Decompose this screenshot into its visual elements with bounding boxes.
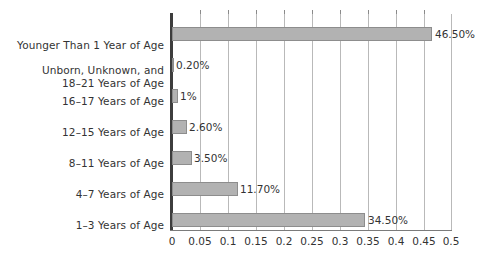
gridline-0.4 <box>396 14 397 231</box>
bar-younger-than-1-year-of-age <box>172 27 432 41</box>
tick-top-0.2 <box>284 10 285 14</box>
bar-8-11-years-of-age <box>172 151 192 165</box>
category-label-16-17-years-of-age: 16–17 Years of Age <box>62 95 164 108</box>
category-label-4-7-years-of-age: 4–7 Years of Age <box>76 188 164 201</box>
gridline-0.2 <box>284 14 285 231</box>
gridline-0.5 <box>451 14 452 231</box>
plot-area: 46.50% 0.20% 1% 2.60% 3.50% 11.70% 34.50… <box>172 14 452 231</box>
xtick-label-0.15: 0.15 <box>244 235 267 248</box>
bar-label-1-3-years-of-age: 34.50% <box>368 214 408 226</box>
gridline-0.35 <box>368 14 369 231</box>
tick-top-0.45 <box>424 10 425 14</box>
bar-4-7-years-of-age <box>172 182 238 196</box>
bar-12-15-years-of-age <box>172 120 187 134</box>
category-label-8-11-years-of-age: 8–11 Years of Age <box>69 157 164 170</box>
x-axis-tick-labels: 0 0.05 0.1 0.15 0.2 0.25 0.3 0.35 0.4 0.… <box>172 235 452 255</box>
bar-16-17-years-of-age <box>172 89 178 103</box>
bar-label-4-7-years-of-age: 11.70% <box>240 183 280 195</box>
tick-top-0.35 <box>368 10 369 14</box>
bar-label-12-15-years-of-age: 2.60% <box>189 121 222 133</box>
gridline-0.25 <box>312 14 313 231</box>
tick-top-0.05 <box>200 10 201 14</box>
x-axis-line <box>170 230 452 231</box>
xtick-label-0.4: 0.4 <box>388 235 405 248</box>
gridline-0.15 <box>256 14 257 231</box>
tick-top-0.1 <box>228 10 229 14</box>
bar-label-unborn-unknown-and-18-21-years-of-age: 0.20% <box>176 59 209 71</box>
xtick-label-0: 0 <box>169 235 176 248</box>
tick-top-0.4 <box>396 10 397 14</box>
xtick-label-0.35: 0.35 <box>356 235 379 248</box>
bar-unborn-unknown-and-18-21-years-of-age <box>172 58 174 72</box>
category-axis-labels: Younger Than 1 Year of Age Unborn, Unkno… <box>0 14 168 231</box>
xtick-label-0.2: 0.2 <box>276 235 293 248</box>
xtick-label-0.05: 0.05 <box>188 235 211 248</box>
category-label-12-15-years-of-age: 12–15 Years of Age <box>62 126 164 139</box>
xtick-label-0.25: 0.25 <box>300 235 323 248</box>
bar-1-3-years-of-age <box>172 213 365 227</box>
bar-chart: Younger Than 1 Year of Age Unborn, Unkno… <box>0 0 495 259</box>
bar-label-16-17-years-of-age: 1% <box>180 90 197 102</box>
bar-label-younger-than-1-year-of-age: 46.50% <box>435 28 475 40</box>
xtick-label-0.45: 0.45 <box>412 235 435 248</box>
category-label-1-3-years-of-age: 1–3 Years of Age <box>76 219 164 232</box>
gridline-0.45 <box>424 14 425 231</box>
gridline-0.3 <box>340 14 341 231</box>
category-label-younger-than-1-year-of-age: Younger Than 1 Year of Age <box>17 39 164 52</box>
tick-top-0.25 <box>312 10 313 14</box>
tick-top-0.3 <box>340 10 341 14</box>
xtick-label-0.3: 0.3 <box>332 235 349 248</box>
xtick-label-0.5: 0.5 <box>443 235 460 248</box>
category-label-unborn-unknown-and-18-21-years-of-age: Unborn, Unknown, and 18–21 Years of Age <box>42 64 164 89</box>
gridline-0.1 <box>228 14 229 231</box>
tick-top-0.15 <box>256 10 257 14</box>
bar-label-8-11-years-of-age: 3.50% <box>194 152 227 164</box>
xtick-label-0.1: 0.1 <box>220 235 237 248</box>
